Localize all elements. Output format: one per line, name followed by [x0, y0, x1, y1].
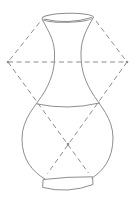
left-vertex-dot	[7, 61, 10, 64]
foot-base	[43, 177, 93, 190]
center-cross-dot	[67, 143, 70, 146]
vertex-dots	[7, 61, 129, 146]
right-vertex-dot	[126, 61, 129, 64]
vase-construction-figure	[0, 0, 136, 201]
left-diagonal-line	[8, 62, 89, 173]
right-diagonal-line	[48, 62, 128, 174]
vase-right-profile	[81, 18, 113, 178]
vase-left-profile	[22, 20, 55, 179]
body-contour-line	[37, 103, 100, 107]
vase-drawing-svg	[0, 0, 136, 201]
diamond-upper-right-edge	[96, 21, 127, 62]
construction-lines	[8, 21, 127, 174]
diamond-upper-left-edge	[8, 23, 40, 63]
vase-outline	[22, 13, 113, 191]
